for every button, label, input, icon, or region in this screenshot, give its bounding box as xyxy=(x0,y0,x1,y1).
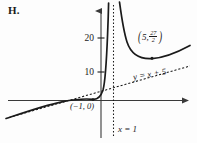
x-intercept-label: (−1, 0) xyxy=(70,101,94,111)
point-label-fraction: 27 2 xyxy=(149,30,157,44)
point-label: ( 5, 27 2 ) xyxy=(137,29,163,44)
vertical-asymptote-label: x = 1 xyxy=(118,124,137,134)
fraction-denominator: 2 xyxy=(149,36,157,44)
point-label-open-paren: ( xyxy=(138,29,141,44)
plot-area xyxy=(0,0,197,143)
marked-point-5-27-2 xyxy=(151,57,154,60)
point-label-close-paren: ) xyxy=(159,29,162,44)
y-tick-label-10: 10 xyxy=(80,67,94,77)
figure-container: H. 20 10 ( 5, xyxy=(0,0,197,143)
y-tick-label-20: 20 xyxy=(80,33,94,43)
point-label-x: 5, xyxy=(142,32,149,42)
